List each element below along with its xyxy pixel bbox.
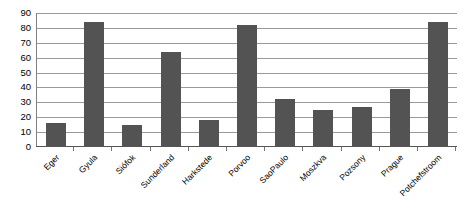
- x-label-slot: Gyula: [74, 151, 112, 212]
- y-tick-label: 90: [20, 8, 31, 18]
- y-tick-label: 30: [20, 98, 31, 108]
- bar[interactable]: [237, 25, 257, 147]
- bar-slot: [228, 13, 266, 147]
- bar-chart: 0102030405060708090 EgerGyulaSiófokSunde…: [0, 0, 464, 212]
- bar[interactable]: [161, 52, 181, 147]
- x-tick-label: Prague: [379, 153, 404, 178]
- x-tick-label: Moszkva: [299, 153, 329, 183]
- bar-slot: [419, 13, 457, 147]
- x-label-slot: Eger: [36, 151, 74, 212]
- y-tick-label: 60: [20, 53, 31, 63]
- x-label-slot: Pozsony: [342, 151, 380, 212]
- bar-slot: [266, 13, 304, 147]
- x-axis-tick-labels: EgerGyulaSiófokSunderlandHarkstedePorvoo…: [36, 151, 456, 212]
- bar-slot: [75, 13, 113, 147]
- y-tick-label: 20: [20, 112, 31, 122]
- y-tick-label: 80: [20, 23, 31, 33]
- bar[interactable]: [275, 99, 295, 147]
- bar-slot: [152, 13, 190, 147]
- x-tick-label: Siófok: [115, 153, 138, 176]
- x-label-slot: Potchefstroom: [418, 151, 456, 212]
- bar-slot: [37, 13, 75, 147]
- bar[interactable]: [390, 89, 410, 147]
- x-tick-label: Eger: [42, 153, 61, 172]
- x-tick-label: Porvoo: [227, 153, 252, 178]
- bar-slot: [304, 13, 342, 147]
- plot-area: [36, 13, 457, 147]
- bar[interactable]: [352, 107, 372, 147]
- bar[interactable]: [84, 22, 104, 147]
- bar[interactable]: [199, 120, 219, 147]
- y-tick-label: 10: [20, 127, 31, 137]
- bar[interactable]: [122, 125, 142, 147]
- x-tick-label: Pozsony: [338, 153, 367, 182]
- y-tick-label: 40: [20, 83, 31, 93]
- bar[interactable]: [428, 22, 448, 147]
- x-label-slot: SaoPaulo: [265, 151, 303, 212]
- x-tick-label: Gyula: [78, 153, 100, 175]
- y-axis-tick-labels: 0102030405060708090: [0, 7, 34, 149]
- x-label-slot: Moszkva: [303, 151, 341, 212]
- y-tick-label: 70: [20, 38, 31, 48]
- bar-slot: [381, 13, 419, 147]
- bar-slot: [113, 13, 151, 147]
- bar-slot: [343, 13, 381, 147]
- bar-slot: [190, 13, 228, 147]
- bar-series: [37, 13, 457, 147]
- bar[interactable]: [46, 123, 66, 147]
- x-label-slot: Harkstede: [189, 151, 227, 212]
- bar[interactable]: [313, 110, 333, 147]
- y-tick-label: 50: [20, 68, 31, 78]
- y-tick-label: 0: [26, 142, 31, 152]
